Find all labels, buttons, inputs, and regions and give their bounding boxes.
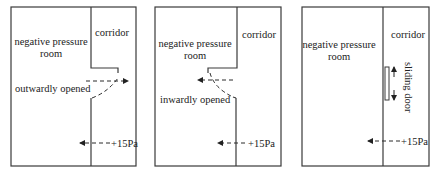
room-label-line2: room (328, 51, 350, 62)
door-type-label: sliding door (403, 62, 414, 113)
corridor-label: corridor (95, 27, 129, 38)
panel-outward-door: negative pressure room corridor outwardl… (11, 7, 138, 166)
room-label-line2: room (40, 48, 62, 59)
panel-sliding-door: sliding door negative pressure room corr… (302, 7, 429, 166)
pressure-door-diagram: negative pressure room corridor outwardl… (0, 0, 441, 180)
pressure-label: +15Pa (248, 138, 275, 149)
corridor-label: corridor (391, 29, 425, 40)
corridor-label: corridor (242, 29, 276, 40)
pressure-label: +15Pa (401, 136, 428, 147)
sliding-door-panel (385, 67, 389, 100)
door-type-label: inwardly opened (160, 94, 231, 105)
room-label-line2: room (184, 50, 206, 61)
panel-inward-door: negative pressure room corridor inwardly… (155, 7, 281, 166)
pressure-label: +15Pa (111, 138, 138, 149)
door-frame-stub (233, 97, 236, 98)
room-label-line1: negative pressure (14, 36, 88, 47)
room-label-line1: negative pressure (302, 39, 376, 50)
room-label-line1: negative pressure (158, 38, 232, 49)
partition-wall-upper (91, 7, 118, 73)
door-type-label: outwardly opened (15, 83, 91, 94)
